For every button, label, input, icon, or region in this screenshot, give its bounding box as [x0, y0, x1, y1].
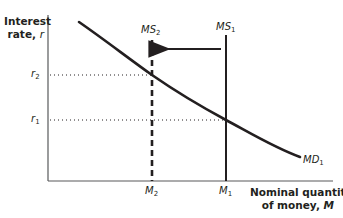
tick-label-r2: r2: [31, 68, 40, 81]
tick-r2-sub: 2: [35, 73, 39, 81]
md1-label-sub: 1: [319, 159, 323, 167]
ms1-label: MS1: [216, 21, 235, 34]
tick-m2-sub: 2: [154, 190, 158, 198]
tick-label-m1: M1: [219, 185, 232, 198]
tick-m2-base: M: [145, 185, 154, 196]
x-axis-title-text: of money,: [262, 199, 324, 211]
tick-m1-base: M: [219, 185, 228, 196]
x-axis-title-line1: Nominal quantity: [250, 186, 334, 199]
x-axis-variable: M: [324, 199, 334, 211]
ms1-label-base: MS: [216, 21, 231, 32]
money-market-diagram: Interest rate, r r2 r1 M2 M1 Nominal qua…: [0, 0, 343, 218]
ms2-label: MS2: [141, 24, 160, 37]
x-axis-title-line2: of money, M: [250, 199, 334, 212]
y-axis-title: Interest rate, r: [4, 15, 44, 41]
tick-m1-sub: 1: [228, 190, 232, 198]
ms2-label-base: MS: [141, 24, 156, 35]
tick-label-r1: r1: [31, 113, 40, 126]
md1-label: MD1: [303, 154, 324, 167]
ms2-label-sub: 2: [156, 29, 160, 37]
y-axis-title-line2: rate, r: [4, 28, 44, 41]
y-axis-title-line1: Interest: [4, 15, 44, 28]
md1-curve: [79, 22, 300, 157]
y-axis-title-text: rate,: [8, 28, 40, 40]
tick-label-m2: M2: [145, 185, 158, 198]
tick-r1-sub: 1: [35, 118, 39, 126]
md1-label-base: MD: [303, 154, 319, 165]
x-axis-title: Nominal quantity of money, M: [250, 186, 334, 212]
ms1-label-sub: 1: [231, 26, 235, 34]
y-axis-variable: r: [40, 28, 44, 40]
